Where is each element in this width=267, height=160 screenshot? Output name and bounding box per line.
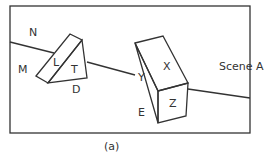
horizon-line-middle	[87, 62, 135, 75]
label-y: Y	[138, 72, 145, 83]
label-l: L	[53, 57, 59, 68]
horizon-line-left	[10, 42, 54, 53]
label-m: M	[18, 64, 28, 75]
scene-frame	[10, 6, 250, 133]
label-e: E	[138, 107, 145, 118]
label-t: T	[71, 64, 78, 75]
scene-label: Scene A	[219, 61, 264, 72]
label-d: D	[72, 84, 80, 95]
scene-diagram	[0, 0, 267, 160]
figure-caption: (a)	[104, 141, 119, 152]
label-n: N	[29, 27, 37, 38]
horizon-line-right	[188, 89, 250, 98]
label-z: Z	[169, 98, 177, 109]
label-x: X	[163, 61, 171, 72]
